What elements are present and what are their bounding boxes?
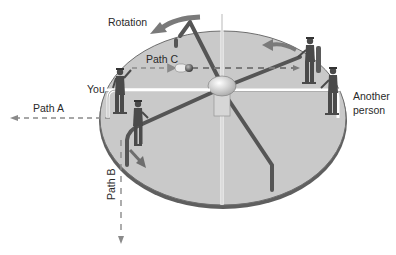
merry-go-round-diagram [0, 0, 396, 255]
path-a-label: Path A [33, 103, 64, 115]
path-c-label: Path C [146, 54, 178, 66]
ball [185, 64, 193, 72]
center-hub [208, 76, 236, 96]
path-a [10, 115, 110, 121]
path-b-label: Path B [106, 168, 118, 200]
rotation-label: Rotation [108, 17, 147, 29]
another-person-label-line2: person [353, 105, 385, 117]
you-label: You [87, 84, 105, 96]
another-person-label-line1: Another [353, 91, 390, 103]
